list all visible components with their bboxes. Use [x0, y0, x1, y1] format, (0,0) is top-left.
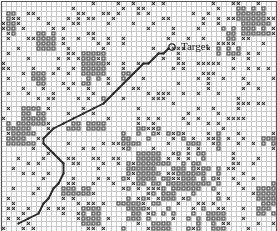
target-label: Target: [181, 41, 209, 52]
occupancy-grid-canvas: [0, 0, 277, 231]
grid-path-figure: Target: [0, 0, 277, 231]
